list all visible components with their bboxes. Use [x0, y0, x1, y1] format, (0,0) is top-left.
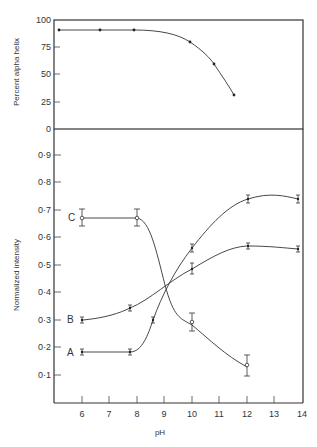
xtick-8: 8 [134, 409, 139, 419]
top-ytick-25: 25 [41, 97, 51, 107]
xtick-11: 11 [214, 409, 223, 419]
top-ytick-100: 100 [36, 15, 51, 25]
bottom-ytick-0.6: 0·6 [38, 232, 51, 242]
series-b: B [67, 243, 300, 325]
xtick-7: 7 [106, 409, 111, 419]
top-y-axis-title: Percent alpha helix [12, 38, 21, 106]
series-a: A [67, 195, 300, 358]
bottom-y-axis-title: Normalized intensity [12, 239, 21, 311]
bottom-ytick-0.8: 0·8 [38, 177, 51, 187]
alpha-helix-series [58, 29, 236, 97]
xtick-12: 12 [242, 409, 252, 419]
series-b-label: B [67, 314, 74, 325]
xtick-14: 14 [297, 409, 307, 419]
bottom-ytick-0.2: 0·2 [38, 342, 51, 352]
top-ytick-50: 50 [41, 69, 51, 79]
bottom-ytick-0.7: 0·7 [38, 205, 51, 215]
top-ytick-0: 0 [46, 124, 51, 134]
top-ytick-75: 75 [41, 42, 51, 52]
bottom-ytick-0.3: 0·3 [38, 315, 51, 325]
series-c: C [68, 209, 250, 376]
xtick-6: 6 [79, 409, 84, 419]
bottom-ytick-0.4: 0·4 [38, 287, 51, 297]
x-axis-title: pH [155, 428, 165, 437]
series-a-label: A [67, 347, 74, 358]
series-c-label: C [68, 212, 75, 223]
figure: 100 75 50 25 0 0·9 0·8 0·7 0·6 0·5 0·4 0… [0, 0, 317, 447]
xtick-13: 13 [269, 409, 279, 419]
xtick-10: 10 [187, 409, 197, 419]
xtick-9: 9 [161, 409, 166, 419]
top-y-ticks: 100 75 50 25 0 [36, 15, 60, 134]
x-ticks: 6 7 8 9 10 11 12 13 14 [79, 396, 307, 419]
bottom-ytick-0.1: 0·1 [38, 370, 51, 380]
bottom-y-ticks: 0·9 0·8 0·7 0·6 0·5 0·4 0·3 0·2 0·1 [38, 150, 61, 380]
bottom-ytick-0.5: 0·5 [38, 260, 51, 270]
bottom-ytick-0.9: 0·9 [38, 150, 51, 160]
